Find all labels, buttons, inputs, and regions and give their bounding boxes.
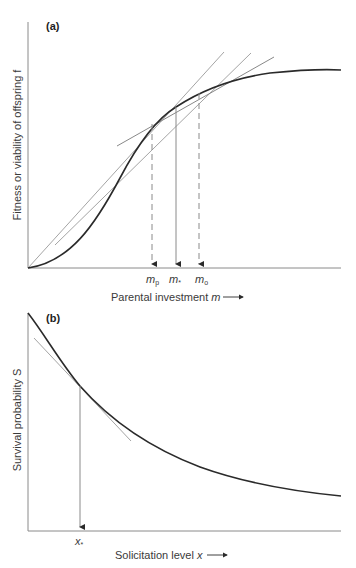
a-tick-mstar: m*	[169, 273, 181, 286]
a-tangent-origin	[28, 52, 224, 268]
a-tangent-flat	[117, 57, 274, 146]
b-x-axis-label: Solicitation level x	[115, 549, 203, 561]
a-panel-label: (a)	[46, 20, 60, 32]
a-y-axis-label: Fitness or viability of offspring f	[11, 69, 23, 221]
b-survival-curve	[28, 313, 341, 496]
a-tick-mp: mp	[146, 273, 159, 287]
panel-b: (b) Survival probability S x* Solicitati…	[11, 312, 341, 561]
figure: (a) Fitness or viability of offspring f …	[0, 0, 356, 568]
panel-a: (a) Fitness or viability of offspring f …	[11, 20, 341, 303]
a-fitness-curve	[28, 70, 341, 268]
a-tick-mo: mo	[195, 273, 208, 286]
a-tangent-middle	[55, 53, 251, 245]
a-x-axis-label: Parental investment m	[111, 291, 220, 303]
b-tick-xstar: x*	[74, 535, 84, 548]
b-panel-label: (b)	[46, 312, 60, 324]
b-y-axis-label: Survival probability S	[11, 369, 23, 472]
